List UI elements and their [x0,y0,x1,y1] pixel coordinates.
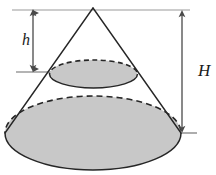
cone-diagram-svg: h H [0,0,216,175]
h-label: h [22,31,30,48]
cone-diagram-figure: h H [0,0,216,175]
H-label: H [197,61,212,80]
